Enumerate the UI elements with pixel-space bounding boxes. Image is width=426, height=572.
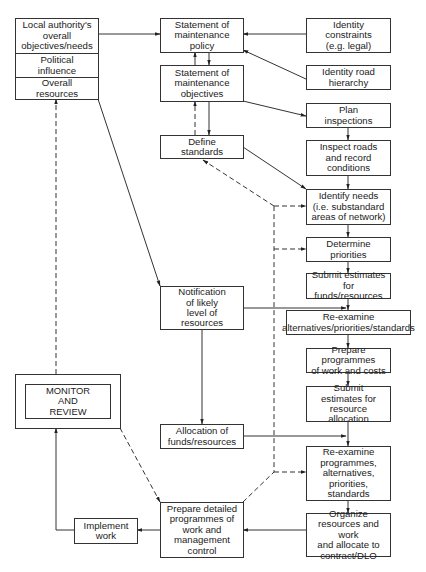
node-organize-resources: Organize resources and work and allocate…	[306, 513, 391, 557]
node-objectives: Statement of maintenance objectives	[160, 65, 244, 102]
node-identify-needs: Identify needs (i.e. substandard areas o…	[306, 189, 391, 225]
arrow-standards-to-identify	[243, 147, 306, 189]
node-constraints: Identity constraints (e.g. legal)	[306, 18, 391, 53]
arrow-resources-to-notification	[98, 99, 160, 286]
node-overall-resources: Overall resources	[16, 78, 98, 99]
node-monitor-review: MONITOR AND REVIEW	[25, 384, 111, 419]
node-political-influence: Political influence	[16, 54, 98, 78]
node-allocation: Allocation of funds/resources	[160, 424, 244, 449]
arrow-monitor-to-detailed	[120, 428, 160, 502]
node-plan-inspections: Plan inspections	[306, 103, 391, 128]
node-reexamine-programmes: Re-examine programmes, alternatives, pri…	[306, 446, 391, 501]
node-submit-funds: Submit estimates for funds/resources	[306, 273, 391, 299]
arrow-hierarchy-to-policy	[243, 50, 306, 79]
authority-stack: Local authority's overall objectives/nee…	[15, 18, 99, 100]
node-inspect-roads: Inspect roads and record conditions	[306, 140, 391, 176]
node-prepare-detailed: Prepare detailed programmes of work and …	[160, 502, 244, 558]
arrow-objectives-to-plan	[243, 101, 306, 116]
node-reexamine-alternatives: Re-examine alternatives/priorities/stand…	[286, 310, 411, 335]
node-define-standards: Define standards	[160, 135, 244, 159]
node-submit-allocation: Submit estimates for resource allocation	[306, 386, 391, 422]
feedback-bus	[243, 206, 274, 502]
node-implement-work: Implement work	[74, 518, 138, 544]
node-policy: Statement of maintenance policy	[160, 18, 244, 53]
monitor-review-frame: MONITOR AND REVIEW	[15, 374, 121, 429]
node-prepare-programmes: Prepare programmes of work and costs	[306, 348, 391, 373]
node-hierarchy: Identity road hierarchy	[306, 65, 391, 90]
arrow-bus-to-standards	[203, 160, 274, 206]
node-local-authority: Local authority's overall objectives/nee…	[16, 19, 98, 54]
node-notification: Notification of likely level of resource…	[160, 286, 244, 330]
node-determine-priorities: Determine priorities	[306, 237, 391, 262]
arrow-implement-to-monitor	[56, 428, 74, 530]
